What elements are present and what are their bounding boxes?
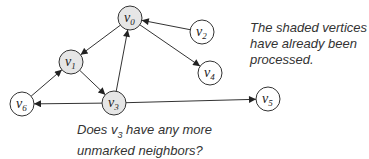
- edge-v3-v6: [34, 103, 102, 104]
- edge-v1-v3: [80, 70, 106, 94]
- shaded-vertices-caption: The shaded vertices have already been pr…: [250, 20, 367, 68]
- vertex-v5: v5: [256, 87, 280, 111]
- vertex-v4: v4: [198, 61, 222, 85]
- vertex-v3: v3: [102, 91, 126, 115]
- edge-v6-v1: [31, 70, 62, 96]
- vertex-v1: v1: [59, 50, 83, 74]
- vertex-v2: v2: [190, 20, 214, 44]
- edge-v0-v1: [81, 25, 121, 55]
- edge-v3-v0: [116, 30, 128, 91]
- edge-v3-v5: [126, 99, 256, 102]
- vertex-v6: v6: [10, 92, 34, 116]
- question-caption: Does v3 have any more unmarked neighbors…: [77, 122, 212, 159]
- edge-v2-v0: [142, 20, 190, 29]
- vertex-v0: v0: [118, 6, 142, 30]
